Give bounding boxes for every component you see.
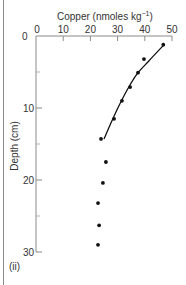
x-tick-label: 30 [112, 24, 124, 35]
data-point [112, 117, 116, 121]
data-point [97, 223, 101, 227]
x-tick-label: 10 [58, 24, 70, 35]
y-axis-ticks: 102030 [23, 72, 42, 258]
y-axis-title: Depth (cm) [9, 121, 20, 170]
data-point [99, 137, 103, 141]
depth-profile-chart: Copper (nmoles kg−1) 01020304050 102030 … [0, 0, 186, 285]
fitted-curve [104, 45, 164, 139]
data-point [142, 57, 146, 61]
data-point [96, 243, 100, 247]
x-axis-title: Copper (nmoles kg−1) [57, 10, 153, 22]
y-axis-origin-label: 0 [22, 31, 28, 42]
data-point [101, 181, 105, 185]
x-tick-label: 0 [34, 24, 40, 35]
y-tick-label: 30 [23, 247, 35, 258]
x-axis-ticks: 01020304050 [34, 24, 178, 41]
data-point [104, 160, 108, 164]
x-tick-label: 50 [166, 24, 178, 35]
y-tick-label: 20 [23, 175, 35, 186]
x-tick-label: 20 [85, 24, 97, 35]
data-point [120, 99, 124, 103]
data-point [128, 85, 132, 89]
data-points [96, 43, 165, 247]
data-point [136, 71, 140, 75]
y-tick-label: 10 [23, 103, 35, 114]
data-point [161, 43, 165, 47]
data-point [96, 201, 100, 205]
chart-figure: Copper (nmoles kg−1) 01020304050 102030 … [0, 0, 186, 285]
panel-label: (ii) [9, 261, 20, 272]
x-tick-label: 40 [139, 24, 151, 35]
